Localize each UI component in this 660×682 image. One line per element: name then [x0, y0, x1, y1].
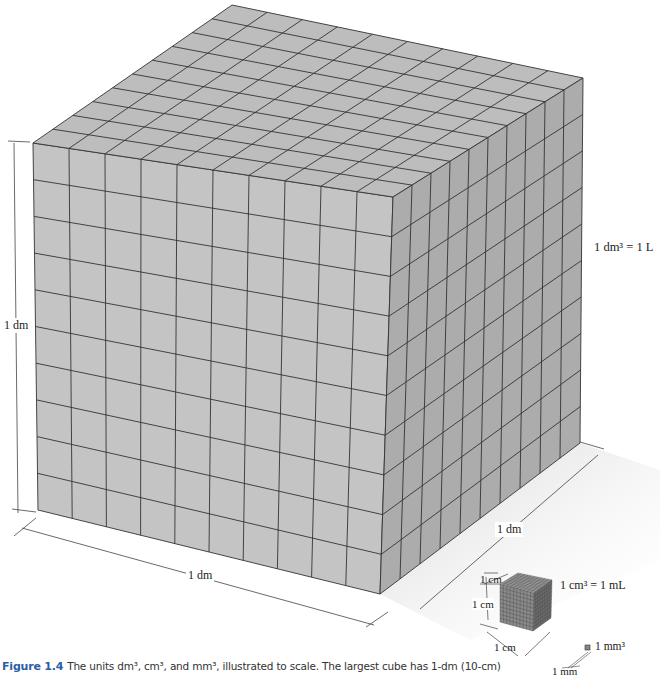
liter-equivalence: 1 dm³ = 1 L — [594, 240, 653, 255]
height-label: 1 dm — [4, 318, 28, 333]
mm-label: 1 mm — [552, 665, 577, 677]
caption-text: The units dm³, cm³, and mm³, illustrated… — [67, 660, 500, 672]
cm-left-label: 1 cm — [472, 598, 494, 610]
milliliter-equivalence: 1 cm³ = 1 mL — [560, 578, 626, 593]
liter-equivalence-text: 1 dm³ = 1 L — [594, 240, 653, 254]
figure-caption: Figure 1.4The units dm³, cm³, and mm³, i… — [2, 660, 501, 673]
figure-number: Figure 1.4 — [2, 660, 63, 673]
cm-top-label: 1 cm — [480, 573, 502, 585]
mm3-label: 1 mm³ — [595, 640, 625, 652]
width-label: 1 dm — [186, 568, 214, 583]
small-cube-1cm — [500, 573, 552, 631]
cm-bottom-label: 1 cm — [494, 641, 516, 653]
depth-label: 1 dm — [495, 522, 523, 537]
